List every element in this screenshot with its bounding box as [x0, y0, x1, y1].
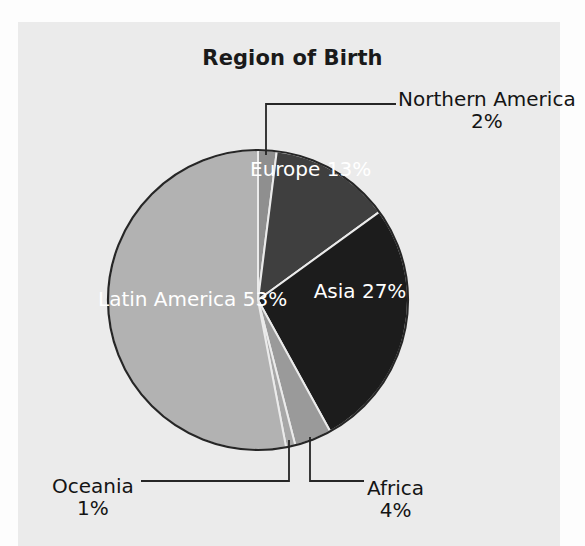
pie-label-northern-america-value: 2% [398, 110, 576, 132]
pie-label-oceania: Oceania 1% [52, 475, 134, 520]
leader-line-northern-america [266, 104, 396, 155]
pie-label-oceania-value: 1% [52, 497, 134, 519]
pie-label-asia: Asia 27% [310, 280, 410, 303]
pie-label-latin-america-value: 53% [243, 287, 287, 311]
pie-label-europe-value: 13% [327, 157, 371, 181]
pie-chart [0, 0, 585, 546]
pie-label-latin-america: Latin America 53% [98, 288, 278, 311]
pie-label-europe-name: Europe [250, 157, 320, 181]
pie-label-africa: Africa 4% [367, 477, 424, 522]
pie-label-asia-name: Asia [314, 279, 356, 303]
pie-label-africa-value: 4% [367, 499, 424, 521]
chart-page: Region of Birth Europe 13% Asia 27% Lati… [0, 0, 585, 546]
pie-label-europe: Europe 13% [250, 158, 350, 181]
pie-label-northern-america: Northern America 2% [398, 88, 576, 133]
pie-label-africa-name: Africa [367, 476, 424, 500]
pie-label-northern-america-name: Northern America [398, 87, 576, 111]
pie-label-oceania-name: Oceania [52, 474, 134, 498]
pie-label-asia-value: 27% [362, 279, 406, 303]
pie-label-latin-america-name: Latin America [98, 287, 236, 311]
leader-line-africa [310, 437, 364, 481]
